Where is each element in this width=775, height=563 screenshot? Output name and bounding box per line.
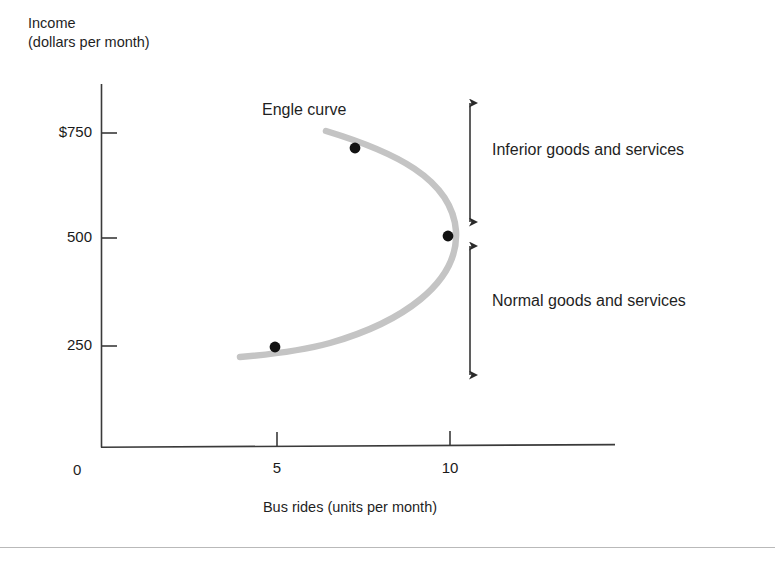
x-tick-label-5: 5 bbox=[247, 459, 307, 476]
y-axis-title-line1: Income bbox=[28, 15, 76, 31]
chart-canvas bbox=[0, 0, 775, 563]
bottom-divider bbox=[0, 547, 775, 548]
origin-label: 0 bbox=[73, 460, 81, 480]
engle-curve-figure: Income(dollars per month) $750 500 250 5… bbox=[0, 0, 775, 563]
x-tick-label-10: 10 bbox=[420, 459, 480, 476]
y-axis-title: Income(dollars per month) bbox=[28, 14, 150, 52]
normal-goods-label: Normal goods and services bbox=[492, 292, 686, 310]
data-point-c bbox=[270, 342, 281, 353]
y-tick-label-750: $750 bbox=[0, 123, 92, 140]
x-axis-title: Bus rides (units per month) bbox=[0, 498, 700, 517]
y-tick-label-250: 250 bbox=[0, 336, 92, 353]
y-tick-label-500: 500 bbox=[0, 228, 92, 245]
data-point-b bbox=[443, 231, 454, 242]
x-axis-line bbox=[101, 445, 615, 448]
engle-curve-label: Engle curve bbox=[262, 99, 347, 120]
inferior-goods-label: Inferior goods and services bbox=[492, 141, 684, 159]
y-axis-title-line2: (dollars per month) bbox=[28, 34, 150, 50]
engle-curve-path bbox=[240, 131, 456, 357]
data-point-a bbox=[350, 143, 361, 154]
